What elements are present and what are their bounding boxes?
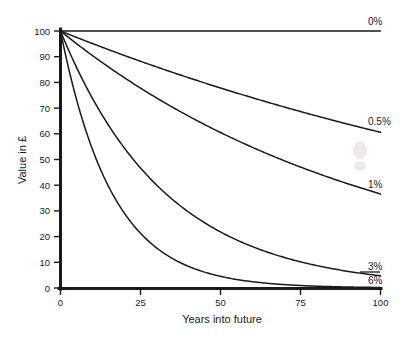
x-tick-label: 75	[295, 297, 306, 308]
x-tick-label: 100	[373, 297, 389, 308]
y-tick-label: 40	[39, 180, 50, 191]
y-tick-label: 0	[45, 283, 50, 294]
scan-smudge	[353, 141, 367, 159]
y-tick-label: 80	[39, 77, 50, 88]
x-tick-label: 25	[135, 297, 146, 308]
series-label-0pct: 0%	[368, 16, 383, 27]
y-tick-label: 60	[39, 128, 50, 139]
y-tick-label: 50	[39, 154, 50, 165]
chart-page: 100 90 80 70 60 50 40 30 20 10 0 0 25 50…	[0, 0, 414, 341]
y-tick-label: 10	[39, 257, 50, 268]
series-label-6pct: 6%	[368, 275, 383, 286]
series-label-1pct: 1%	[368, 179, 383, 190]
y-tick-label: 20	[39, 231, 50, 242]
x-axis-title: Years into future	[182, 313, 262, 325]
y-tick-label: 70	[39, 103, 50, 114]
series-label-0-5pct: 0.5%	[368, 116, 391, 127]
series-label-3pct: 3%	[368, 261, 383, 272]
y-tick-label: 30	[39, 205, 50, 216]
x-tick-label: 50	[215, 297, 226, 308]
discount-rate-line-chart: 100 90 80 70 60 50 40 30 20 10 0 0 25 50…	[0, 0, 414, 341]
y-axis-title: Value in £	[16, 136, 28, 184]
y-tick-label: 100	[34, 26, 50, 37]
y-tick-label: 90	[39, 51, 50, 62]
scan-smudge	[354, 161, 366, 171]
x-tick-label: 0	[58, 297, 63, 308]
